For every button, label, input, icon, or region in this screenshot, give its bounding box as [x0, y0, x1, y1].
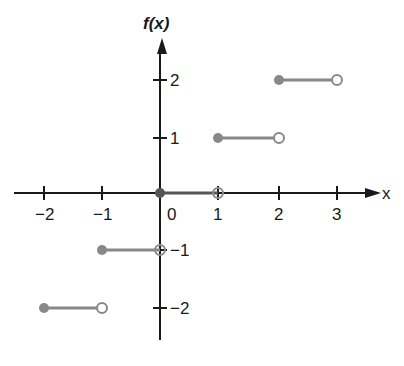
y-tick-label: −2 — [170, 299, 189, 318]
segment-y-minus-2 — [39, 303, 107, 313]
closed-dot-icon — [97, 245, 107, 255]
y-tick-label: −1 — [170, 241, 189, 260]
step-function-chart: f(x) x −2 −1 0 1 2 3 2 1 −1 −2 — [0, 0, 404, 366]
open-dot-icon — [274, 133, 284, 143]
open-dot-icon — [332, 75, 342, 85]
closed-dot-icon — [155, 188, 165, 198]
x-tick-label: 0 — [167, 205, 176, 224]
open-dot-icon — [97, 303, 107, 313]
x-tick-label: 3 — [332, 205, 341, 224]
segment-y-2 — [274, 75, 342, 85]
x-axis-arrow-icon — [365, 188, 381, 198]
y-tick-label: 2 — [170, 71, 179, 90]
x-axis-label: x — [382, 184, 391, 203]
closed-dot-icon — [39, 303, 49, 313]
y-tick-label: 1 — [170, 129, 179, 148]
x-tick-label: 1 — [213, 205, 222, 224]
closed-dot-icon — [274, 75, 284, 85]
x-tick-label: −2 — [35, 205, 54, 224]
closed-dot-icon — [213, 133, 223, 143]
segment-y-0 — [155, 188, 223, 198]
y-axis-arrow-icon — [157, 38, 167, 54]
segment-y-1 — [213, 133, 284, 143]
y-axis-label: f(x) — [143, 14, 170, 33]
axes — [14, 38, 381, 340]
x-tick-label: −1 — [93, 205, 112, 224]
x-tick-label: 2 — [274, 205, 283, 224]
segment-y-minus-1 — [97, 245, 165, 255]
